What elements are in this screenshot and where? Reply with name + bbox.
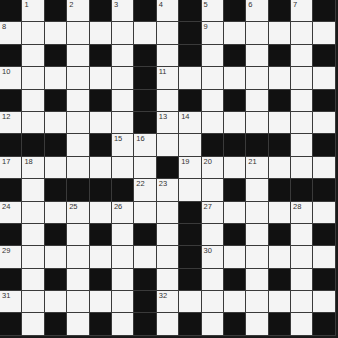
crossword-cell[interactable] [291,224,313,246]
crossword-cell[interactable] [90,67,112,89]
crossword-cell[interactable] [22,67,44,89]
crossword-cell[interactable] [179,179,201,201]
crossword-cell[interactable]: 24 [0,202,22,224]
crossword-cell[interactable]: 8 [0,22,22,44]
crossword-cell[interactable] [134,22,156,44]
crossword-cell[interactable]: 29 [0,246,22,268]
crossword-cell[interactable]: 21 [246,157,268,179]
crossword-cell[interactable] [202,291,224,313]
crossword-cell[interactable] [269,202,291,224]
crossword-cell[interactable] [112,291,134,313]
crossword-cell[interactable] [67,112,89,134]
crossword-cell[interactable]: 14 [179,112,201,134]
crossword-cell[interactable] [45,157,67,179]
crossword-cell[interactable]: 28 [291,202,313,224]
crossword-cell[interactable] [112,67,134,89]
crossword-cell[interactable]: 22 [134,179,156,201]
crossword-cell[interactable] [269,112,291,134]
crossword-cell[interactable] [269,157,291,179]
crossword-cell[interactable] [246,246,268,268]
crossword-cell[interactable] [45,202,67,224]
crossword-cell[interactable] [246,67,268,89]
crossword-cell[interactable] [67,291,89,313]
crossword-cell[interactable] [67,157,89,179]
crossword-cell[interactable] [246,45,268,67]
crossword-cell[interactable] [90,291,112,313]
crossword-cell[interactable] [202,224,224,246]
crossword-cell[interactable] [202,179,224,201]
crossword-cell[interactable] [202,90,224,112]
crossword-cell[interactable] [112,45,134,67]
crossword-cell[interactable] [134,157,156,179]
crossword-cell[interactable] [22,45,44,67]
crossword-cell[interactable] [45,112,67,134]
crossword-cell[interactable]: 7 [291,0,313,22]
crossword-cell[interactable] [157,202,179,224]
crossword-cell[interactable] [202,45,224,67]
crossword-cell[interactable] [313,67,335,89]
crossword-cell[interactable]: 30 [202,246,224,268]
crossword-cell[interactable] [90,22,112,44]
crossword-cell[interactable] [112,246,134,268]
crossword-cell[interactable] [179,67,201,89]
crossword-cell[interactable] [157,246,179,268]
crossword-cell[interactable] [134,202,156,224]
crossword-cell[interactable] [157,45,179,67]
crossword-cell[interactable]: 31 [0,291,22,313]
crossword-cell[interactable] [45,246,67,268]
crossword-cell[interactable] [112,112,134,134]
crossword-cell[interactable] [246,313,268,335]
crossword-cell[interactable] [67,90,89,112]
crossword-cell[interactable]: 27 [202,202,224,224]
crossword-cell[interactable] [313,112,335,134]
crossword-cell[interactable] [291,134,313,156]
crossword-cell[interactable] [313,291,335,313]
crossword-cell[interactable] [202,269,224,291]
crossword-cell[interactable] [246,202,268,224]
crossword-cell[interactable] [22,246,44,268]
crossword-cell[interactable] [157,313,179,335]
crossword-cell[interactable] [157,90,179,112]
crossword-cell[interactable] [291,67,313,89]
crossword-cell[interactable] [112,224,134,246]
crossword-cell[interactable] [313,157,335,179]
crossword-cell[interactable] [157,269,179,291]
crossword-cell[interactable] [246,112,268,134]
crossword-cell[interactable] [179,134,201,156]
crossword-cell[interactable]: 9 [202,22,224,44]
crossword-cell[interactable] [224,202,246,224]
crossword-cell[interactable]: 1 [22,0,44,22]
crossword-cell[interactable]: 17 [0,157,22,179]
crossword-cell[interactable]: 11 [157,67,179,89]
crossword-cell[interactable] [90,202,112,224]
crossword-cell[interactable]: 20 [202,157,224,179]
crossword-cell[interactable] [134,246,156,268]
crossword-cell[interactable] [224,67,246,89]
crossword-cell[interactable] [202,313,224,335]
crossword-cell[interactable] [291,269,313,291]
crossword-cell[interactable] [45,291,67,313]
crossword-cell[interactable] [224,22,246,44]
crossword-cell[interactable] [291,112,313,134]
crossword-cell[interactable]: 5 [202,0,224,22]
crossword-cell[interactable] [179,291,201,313]
crossword-cell[interactable] [291,90,313,112]
crossword-cell[interactable] [112,157,134,179]
crossword-cell[interactable]: 4 [157,0,179,22]
crossword-cell[interactable] [112,313,134,335]
crossword-cell[interactable] [67,45,89,67]
crossword-cell[interactable] [269,291,291,313]
crossword-cell[interactable] [202,67,224,89]
crossword-cell[interactable] [224,157,246,179]
crossword-cell[interactable] [112,269,134,291]
crossword-cell[interactable] [291,291,313,313]
crossword-cell[interactable] [246,291,268,313]
crossword-cell[interactable] [22,313,44,335]
crossword-cell[interactable] [246,179,268,201]
crossword-cell[interactable]: 16 [134,134,156,156]
crossword-cell[interactable] [90,112,112,134]
crossword-cell[interactable] [291,22,313,44]
crossword-cell[interactable]: 25 [67,202,89,224]
crossword-cell[interactable] [67,224,89,246]
crossword-cell[interactable] [291,313,313,335]
